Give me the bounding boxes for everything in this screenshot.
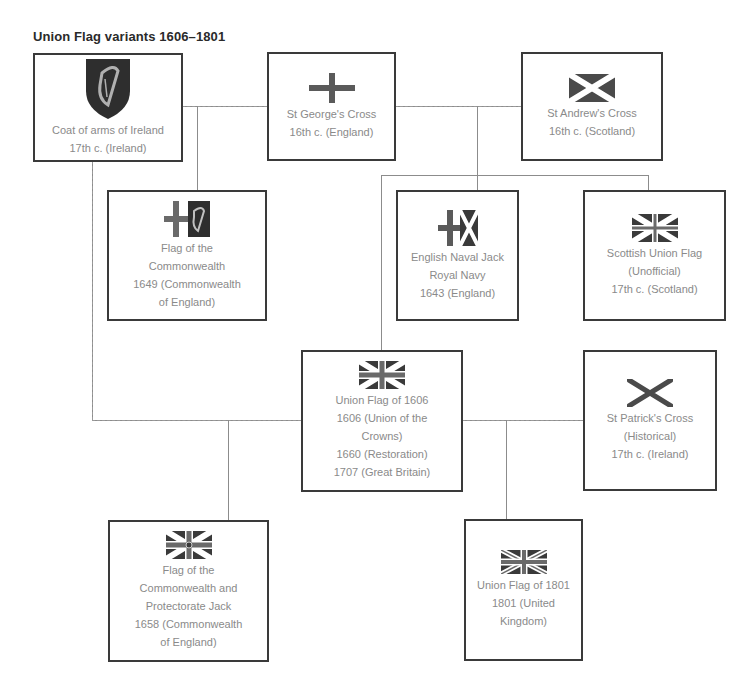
connector-coa-george xyxy=(182,106,267,107)
node-commonwealth-flag[interactable]: Flag of the Commonwealth 1649 (Commonwea… xyxy=(107,190,267,321)
node-label-line: (Unofficial) xyxy=(628,262,680,280)
node-label-line: Royal Navy xyxy=(429,266,485,284)
connector-to-union-1606 xyxy=(381,175,382,350)
node-label-line: 17th c. (Ireland) xyxy=(69,139,146,157)
connector-union1606-patrick xyxy=(462,420,583,421)
node-label-line: 1643 (England) xyxy=(420,284,495,302)
st-andrew-saltire-icon xyxy=(569,74,615,102)
connector-george-andrew xyxy=(395,106,521,107)
node-label-line: St Patrick's Cross xyxy=(607,409,693,427)
node-label-line: 1660 (Restoration) xyxy=(336,445,427,463)
node-scottish-union-flag[interactable]: Scottish Union Flag (Unofficial) 17th c.… xyxy=(583,190,726,321)
node-label-line: 16th c. (Scotland) xyxy=(549,122,635,140)
union-flag-1801-icon xyxy=(501,550,547,574)
protectorate-jack-icon xyxy=(166,531,212,559)
node-label-line: Commonwealth xyxy=(149,257,225,275)
node-label-line: Crowns) xyxy=(362,427,403,445)
node-english-naval-jack[interactable]: English Naval Jack Royal Navy 1643 (Engl… xyxy=(396,190,519,321)
node-union-flag-1606[interactable]: Union Flag of 1606 1606 (Union of the Cr… xyxy=(301,350,463,492)
node-label-line: of England) xyxy=(159,293,215,311)
node-label-line: Scottish Union Flag xyxy=(607,244,702,262)
connector-to-commonwealth xyxy=(197,106,198,190)
connector-to-union-1801 xyxy=(506,420,507,519)
naval-jack-icon xyxy=(438,210,478,246)
node-label-line: (Historical) xyxy=(624,427,677,445)
st-george-cross-icon xyxy=(309,73,355,103)
node-label-line: 16th c. (England) xyxy=(290,123,374,141)
node-label-line: Coat of arms of Ireland xyxy=(52,121,164,139)
node-protectorate-jack[interactable]: Flag of the Commonwealth and Protectorat… xyxy=(108,520,269,662)
node-st-patrick-cross[interactable]: St Patrick's Cross (Historical) 17th c. … xyxy=(583,350,717,491)
node-label-line: St Andrew's Cross xyxy=(547,104,637,122)
node-st-andrew-cross[interactable]: St Andrew's Cross 16th c. (Scotland) xyxy=(521,52,663,161)
connector-coa-down xyxy=(92,161,93,420)
harp-shield-icon xyxy=(86,59,130,119)
node-label-line: Kingdom) xyxy=(500,612,547,630)
node-label-line: 17th c. (Scotland) xyxy=(611,280,697,298)
node-label-line: 1707 (Great Britain) xyxy=(334,463,431,481)
connector-coa-union1606 xyxy=(92,420,301,421)
node-label-line: 1649 (Commonwealth xyxy=(133,275,241,293)
node-label-line: English Naval Jack xyxy=(411,248,504,266)
scottish-union-flag-icon xyxy=(632,214,678,242)
connector-to-naval-jack xyxy=(477,106,478,190)
connector-to-scottish-union xyxy=(648,175,649,190)
node-label-line: of England) xyxy=(160,633,216,651)
node-label-line: Commonwealth and xyxy=(140,579,238,597)
node-coat-of-arms-ireland[interactable]: Coat of arms of Ireland 17th c. (Ireland… xyxy=(33,53,183,162)
union-flag-1606-icon xyxy=(359,361,405,389)
node-label-line: Union Flag of 1606 xyxy=(336,391,429,409)
connector-branch-horizontal xyxy=(381,175,649,176)
node-label-line: 1658 (Commonwealth xyxy=(135,615,243,633)
node-label-line: Union Flag of 1801 xyxy=(477,576,570,594)
diagram-title: Union Flag variants 1606–1801 xyxy=(33,29,225,44)
node-label-line: 1801 (United xyxy=(492,594,555,612)
node-label-line: 17th c. (Ireland) xyxy=(611,445,688,463)
node-label-line: Protectorate Jack xyxy=(146,597,232,615)
node-union-flag-1801[interactable]: Union Flag of 1801 1801 (United Kingdom) xyxy=(464,519,583,661)
connector-to-protectorate-jack xyxy=(228,420,229,520)
node-st-george-cross[interactable]: St George's Cross 16th c. (England) xyxy=(267,52,396,161)
node-label-line: Flag of the xyxy=(163,561,215,579)
node-label-line: St George's Cross xyxy=(287,105,377,123)
commonwealth-flag-icon xyxy=(164,201,210,237)
node-label-line: Flag of the xyxy=(161,239,213,257)
node-label-line: 1606 (Union of the xyxy=(337,409,428,427)
st-patrick-saltire-icon xyxy=(627,379,673,407)
